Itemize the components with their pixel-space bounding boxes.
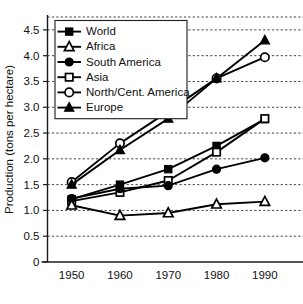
chart-legend: WorldAfricaSouth AmericaAsiaNorth/Cent. … — [55, 21, 190, 119]
legend-label: North/Cent. America — [86, 86, 190, 98]
legend-label: Asia — [86, 71, 109, 83]
data-point — [163, 208, 173, 217]
data-point — [261, 53, 269, 61]
y-axis-ticks: 00.51.01.52.02.53.03.54.04.5 — [24, 24, 48, 268]
legend-label: Europe — [86, 101, 123, 113]
y-tick-label: 3.5 — [24, 75, 40, 87]
legend-label: World — [86, 25, 116, 37]
y-tick-label: 4.0 — [24, 50, 40, 62]
x-tick-label: 1960 — [107, 269, 133, 281]
legend-marker — [65, 88, 73, 96]
legend-label: South America — [86, 56, 161, 68]
x-tick-label: 1970 — [155, 269, 181, 281]
legend-label: Africa — [86, 40, 116, 52]
data-point — [213, 148, 220, 155]
x-tick-label: 1980 — [204, 269, 230, 281]
y-tick-label: 3.0 — [24, 101, 40, 113]
data-point — [260, 196, 270, 205]
x-tick-label: 1950 — [59, 269, 85, 281]
series-africa — [67, 196, 270, 219]
data-point — [115, 210, 125, 219]
y-tick-label: 1.5 — [24, 179, 40, 191]
legend-marker — [65, 58, 73, 66]
y-tick-label: 2.0 — [24, 153, 40, 165]
y-tick-label: 4.5 — [24, 24, 40, 36]
data-point — [165, 166, 172, 173]
x-axis-ticks: 19501960197019801990 — [59, 269, 278, 281]
data-point — [213, 165, 221, 173]
y-axis-title: Production (tons per hectare) — [3, 65, 15, 214]
data-point — [116, 185, 124, 193]
y-tick-label: 0 — [33, 256, 39, 268]
line-chart: 00.51.01.52.02.53.03.54.04.5 19501960197… — [0, 0, 303, 304]
x-tick-label: 1990 — [252, 269, 278, 281]
y-tick-label: 1.0 — [24, 204, 40, 216]
data-point — [261, 154, 269, 162]
legend-marker — [66, 74, 73, 81]
data-point — [261, 115, 268, 122]
data-point — [260, 35, 269, 44]
legend-marker — [66, 28, 73, 35]
data-point — [164, 182, 172, 190]
chart-container: 00.51.01.52.02.53.03.54.04.5 19501960197… — [0, 0, 303, 304]
y-tick-label: 2.5 — [24, 127, 40, 139]
y-tick-label: 0.5 — [24, 230, 40, 242]
data-point — [212, 199, 222, 208]
